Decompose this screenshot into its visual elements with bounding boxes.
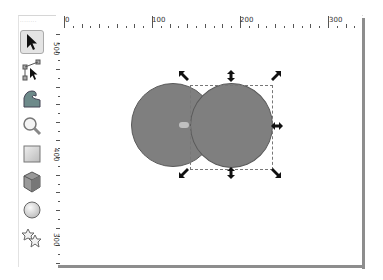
horizontal-ruler[interactable]: 0100200300 <box>56 15 362 30</box>
ruler-corner: ........ <box>20 17 56 25</box>
ruler-tick <box>56 104 60 105</box>
circle-icon <box>22 200 42 220</box>
ruler-tick <box>337 26 338 28</box>
ruler-tick <box>187 24 188 28</box>
rectangle-tool-button[interactable] <box>20 142 44 166</box>
ruler-tick <box>108 26 109 28</box>
ruler-tick <box>56 34 60 35</box>
tweak-tool-button[interactable] <box>20 86 44 110</box>
scale-handle-n-icon[interactable] <box>225 70 237 82</box>
scale-handle-e-icon[interactable] <box>271 120 283 132</box>
ruler-tick <box>205 24 206 28</box>
ruler-tick <box>99 24 100 28</box>
ruler-label: 200 <box>240 16 253 24</box>
ruler-tick <box>58 113 60 114</box>
square-icon <box>23 145 41 163</box>
ruler-tick <box>56 192 60 193</box>
ruler-tick <box>310 24 311 28</box>
ruler-tick <box>58 219 60 220</box>
ruler-tick <box>56 263 60 264</box>
node-tool-button[interactable] <box>20 58 44 82</box>
window-shadow-bottom <box>58 265 365 268</box>
ruler-tick <box>319 26 320 28</box>
node-edit-icon <box>21 59 43 81</box>
ruler-tick <box>258 24 259 28</box>
window-shadow-right <box>362 18 365 269</box>
ruler-tick <box>143 26 144 28</box>
3d-box-tool-button[interactable] <box>20 170 44 194</box>
ruler-tick <box>56 175 60 176</box>
scale-handle-se-icon[interactable] <box>270 167 282 179</box>
ruler-tick <box>170 24 171 28</box>
scale-handle-nw-icon[interactable] <box>178 70 190 82</box>
ruler-tick <box>266 26 267 28</box>
ruler-label: 0 <box>65 16 69 24</box>
ruler-tick <box>56 122 60 123</box>
cube-icon <box>22 171 42 193</box>
ruler-tick <box>56 228 60 229</box>
ruler-tick <box>58 96 60 97</box>
ruler-tick <box>117 24 118 28</box>
magnifier-icon <box>22 116 42 136</box>
ruler-tick <box>178 26 179 28</box>
ruler-tick <box>56 210 60 211</box>
ruler-tick <box>196 26 197 28</box>
zoom-tool-button[interactable] <box>20 114 44 138</box>
ellipse-tool-button[interactable] <box>20 198 44 222</box>
ruler-label: 300 <box>52 233 60 246</box>
drawing-canvas[interactable] <box>62 30 362 265</box>
toolbox <box>18 28 46 268</box>
ruler-tick <box>302 26 303 28</box>
selector-tool-button[interactable] <box>20 30 44 54</box>
ruler-label: 400 <box>52 148 60 161</box>
ruler-tick <box>58 60 60 61</box>
scale-handle-sw-icon[interactable] <box>178 167 190 179</box>
ruler-tick <box>275 24 276 28</box>
ruler-tick <box>73 26 74 28</box>
ruler-label: 100 <box>152 16 165 24</box>
ruler-tick <box>161 26 162 28</box>
ruler-tick <box>214 26 215 28</box>
ruler-tick <box>56 87 60 88</box>
ruler-tick <box>58 254 60 255</box>
selection-bounding-box <box>190 85 273 170</box>
ruler-tick <box>58 201 60 202</box>
ruler-tick <box>354 26 355 28</box>
ruler-tick <box>249 26 250 28</box>
ruler-tick <box>346 24 347 28</box>
ruler-tick <box>222 24 223 28</box>
vertical-ruler[interactable]: 500400300 <box>52 30 62 266</box>
ruler-tick <box>82 24 83 28</box>
ruler-tick <box>56 69 60 70</box>
arrow-icon <box>24 33 40 51</box>
scale-handle-s-icon[interactable] <box>225 167 237 179</box>
ruler-tick <box>231 26 232 28</box>
star-icon <box>21 227 43 249</box>
ruler-tick <box>56 140 60 141</box>
ruler-tick <box>134 24 135 28</box>
rotation-center-marker[interactable] <box>179 122 189 128</box>
ruler-label: 500 <box>52 42 60 55</box>
ruler-tick <box>58 78 60 79</box>
ruler-tick <box>284 26 285 28</box>
ruler-tick <box>293 24 294 28</box>
star-tool-button[interactable] <box>20 226 44 250</box>
ruler-tick <box>90 26 91 28</box>
wave-icon <box>22 88 42 108</box>
ruler-tick <box>58 131 60 132</box>
ruler-tick <box>58 184 60 185</box>
ruler-tick <box>58 166 60 167</box>
ruler-tick <box>126 26 127 28</box>
ruler-label: 300 <box>329 16 342 24</box>
scale-handle-ne-icon[interactable] <box>270 70 282 82</box>
